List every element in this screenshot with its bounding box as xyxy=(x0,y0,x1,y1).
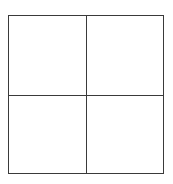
grid-cell-top-right xyxy=(87,16,163,95)
grid-cell-bottom-right xyxy=(87,96,163,173)
two-by-two-grid xyxy=(8,15,164,174)
horizontal-divider xyxy=(9,95,163,96)
grid-cell-top-left xyxy=(9,16,86,95)
grid-cell-bottom-left xyxy=(9,96,86,173)
